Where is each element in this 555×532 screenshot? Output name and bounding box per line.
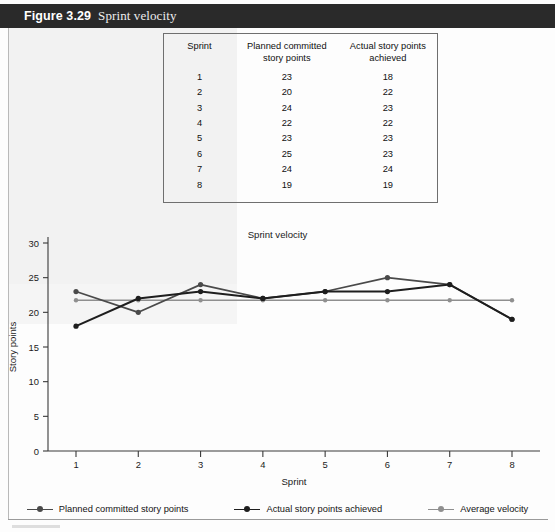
cell-actual: 22 — [339, 115, 437, 130]
column-header-planned-line2: story points — [237, 53, 337, 65]
data-point — [136, 310, 141, 315]
table-row: 52323 — [164, 131, 437, 146]
cell-actual: 23 — [339, 146, 437, 161]
column-header-sprint: Sprint — [164, 34, 235, 69]
table-row: 22022 — [164, 85, 437, 100]
data-point — [73, 289, 78, 294]
figure-caption-bar: Figure 3.29 Sprint velocity — [0, 4, 555, 28]
data-point — [385, 298, 389, 302]
cell-planned: 19 — [235, 177, 339, 192]
scan-speck-artifact — [12, 525, 60, 528]
legend-label: Average velocity — [460, 504, 528, 514]
data-point — [260, 296, 265, 301]
cell-sprint: 6 — [164, 146, 235, 161]
column-header-actual-line1: Actual story points — [341, 41, 435, 53]
x-axis-title: Sprint — [281, 476, 306, 487]
data-point — [323, 289, 328, 294]
table-header-row: Sprint Planned committed story points Ac… — [164, 34, 437, 69]
cell-sprint: 8 — [164, 177, 235, 192]
x-tick-label: 1 — [73, 459, 78, 470]
cell-sprint: 2 — [164, 85, 235, 100]
table-row: 81919 — [164, 177, 437, 192]
figure-number: Figure 3.29 — [24, 9, 91, 23]
cell-actual: 23 — [339, 100, 437, 115]
data-point — [448, 298, 452, 302]
data-point — [73, 324, 78, 329]
table-head: Sprint Planned committed story points Ac… — [164, 34, 437, 69]
x-tick-label: 8 — [509, 459, 514, 470]
series-line-1 — [76, 285, 512, 327]
figure-page: Figure 3.29 Sprint velocity Sprint Plann… — [0, 0, 555, 532]
table-row: 12318 — [164, 69, 437, 84]
column-header-sprint-line1: Sprint — [166, 41, 233, 53]
legend-marker-icon — [428, 505, 454, 514]
legend-marker-icon — [234, 505, 260, 514]
cell-sprint: 1 — [164, 69, 235, 84]
data-point — [385, 275, 390, 280]
cell-actual: 22 — [339, 85, 437, 100]
cell-actual: 18 — [339, 69, 437, 84]
cell-planned: 22 — [235, 115, 339, 130]
y-tick-label: 5 — [34, 411, 39, 422]
table-row: 42222 — [164, 115, 437, 130]
legend-item[interactable]: Actual story points achieved — [234, 504, 382, 514]
sprint-table: Sprint Planned committed story points Ac… — [164, 34, 437, 192]
column-header-planned: Planned committed story points — [235, 34, 339, 69]
y-tick-label: 0 — [34, 446, 39, 457]
y-tick-label: 10 — [29, 376, 39, 387]
cell-planned: 24 — [235, 100, 339, 115]
cell-actual: 19 — [339, 177, 437, 192]
table-row: 32423 — [164, 100, 437, 115]
x-tick-label: 5 — [323, 459, 328, 470]
cell-actual: 24 — [339, 161, 437, 176]
chart-legend: Planned committed story pointsActual sto… — [0, 500, 555, 518]
data-point — [198, 282, 203, 287]
figure-caption-text: Sprint velocity — [98, 8, 176, 24]
legend-item[interactable]: Planned committed story points — [27, 504, 189, 514]
x-tick-label: 3 — [198, 459, 203, 470]
data-point — [447, 282, 452, 287]
table-row: 72424 — [164, 161, 437, 176]
x-tick-label: 6 — [385, 459, 390, 470]
data-point — [385, 289, 390, 294]
cell-sprint: 7 — [164, 161, 235, 176]
x-tick-label: 4 — [260, 459, 265, 470]
cell-planned: 23 — [235, 131, 339, 146]
x-tick-label: 2 — [136, 459, 141, 470]
y-axis-title: Story points — [7, 321, 18, 372]
legend-label: Actual story points achieved — [266, 504, 382, 514]
y-tick-label: 20 — [29, 307, 39, 318]
table-row: 62523 — [164, 146, 437, 161]
sprint-data-table: Sprint Planned committed story points Ac… — [163, 33, 438, 203]
page-border-bottom — [8, 519, 548, 520]
data-point — [74, 298, 78, 302]
cell-sprint: 5 — [164, 131, 235, 146]
legend-item[interactable]: Average velocity — [428, 504, 528, 514]
data-point — [509, 317, 514, 322]
cell-planned: 25 — [235, 146, 339, 161]
y-tick-label: 25 — [29, 272, 39, 283]
column-header-actual: Actual story points achieved — [339, 34, 437, 69]
cell-actual: 23 — [339, 131, 437, 146]
data-point — [510, 298, 514, 302]
y-tick-label: 30 — [29, 238, 39, 249]
data-point — [136, 296, 141, 301]
column-header-actual-line2: achieved — [341, 53, 435, 65]
cell-planned: 20 — [235, 85, 339, 100]
table-body: 1231822022324234222252323625237242481919 — [164, 69, 437, 192]
data-point — [198, 289, 203, 294]
chart-canvas: 05101520253012345678SprintStory points — [0, 215, 555, 505]
column-header-planned-line1: Planned committed — [237, 41, 337, 53]
data-point — [323, 298, 327, 302]
legend-marker-icon — [27, 505, 53, 514]
cell-planned: 23 — [235, 69, 339, 84]
data-point — [198, 298, 202, 302]
cell-planned: 24 — [235, 161, 339, 176]
cell-sprint: 3 — [164, 100, 235, 115]
x-tick-label: 7 — [447, 459, 452, 470]
legend-label: Planned committed story points — [59, 504, 189, 514]
sprint-velocity-chart: Sprint velocity 05101520253012345678Spri… — [0, 215, 555, 505]
y-tick-label: 15 — [29, 342, 39, 353]
cell-sprint: 4 — [164, 115, 235, 130]
